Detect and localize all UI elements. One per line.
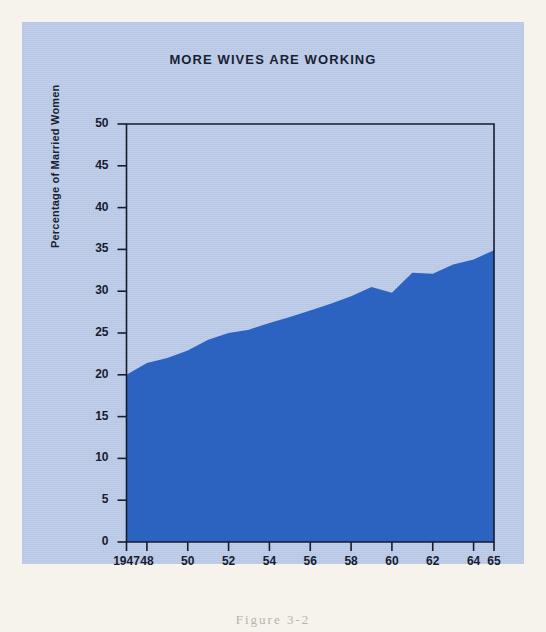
y-tick-label: 25 [79, 325, 109, 339]
y-tick-label: 10 [79, 450, 109, 464]
x-tick-label: 48 [127, 554, 167, 568]
y-tick-marks [118, 124, 127, 542]
x-tick-label: 56 [290, 554, 330, 568]
x-tick-label: 62 [413, 554, 453, 568]
figure-root: MORE WIVES ARE WORKING Percentage of Mar… [0, 0, 546, 632]
y-tick-label: 15 [79, 409, 109, 423]
y-tick-label: 0 [79, 534, 109, 548]
y-tick-label: 5 [79, 492, 109, 506]
x-tick-label: 60 [372, 554, 412, 568]
figure-caption: Figure 3-2 [0, 612, 546, 632]
x-tick-label: 50 [168, 554, 208, 568]
y-tick-label: 50 [79, 116, 109, 130]
y-tick-label: 35 [79, 241, 109, 255]
x-tick-marks [127, 542, 495, 551]
x-tick-label: 52 [209, 554, 249, 568]
area-series [127, 250, 495, 542]
y-tick-label: 20 [79, 367, 109, 381]
y-tick-label: 40 [79, 200, 109, 214]
x-tick-label: 54 [249, 554, 289, 568]
x-tick-label: 65 [474, 554, 514, 568]
area-series-path [127, 250, 495, 542]
y-tick-label: 30 [79, 283, 109, 297]
y-tick-label: 45 [79, 158, 109, 172]
x-tick-label: 58 [331, 554, 371, 568]
